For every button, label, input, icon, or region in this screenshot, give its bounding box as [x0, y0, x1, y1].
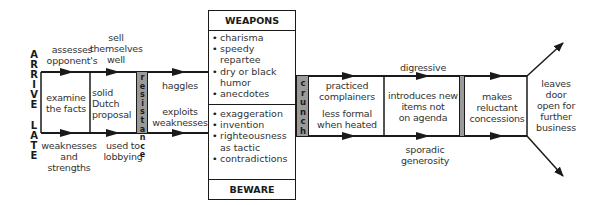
weapons-beware-box: WEAPONS charisma speedy repartee dry or …	[208, 10, 296, 200]
text-line: leaves	[528, 78, 584, 89]
text-line: Dutch	[92, 98, 136, 109]
stage-haggles: haggles	[151, 80, 209, 91]
text-line: exploits	[151, 106, 209, 117]
text-line: proposal	[92, 109, 136, 120]
text-line: well	[90, 54, 142, 65]
resistance-label: r e s i s t a n c e	[137, 74, 148, 160]
weapons-item: dry or black humor	[212, 66, 293, 88]
text-line: solid	[92, 87, 136, 98]
stage-practiced-complainers: practiced complainers	[311, 80, 383, 102]
stage-makes-concessions: makes reluctant concessions	[467, 91, 527, 124]
letter: e	[137, 151, 148, 160]
text-line: generosity	[390, 155, 460, 166]
text-line: introduces new	[384, 90, 462, 101]
digressive-label: digressive	[388, 62, 458, 73]
stage-leaves-door-open: leaves door open for further business	[528, 78, 584, 133]
stage-introduces: introduces new items not on agenda	[384, 90, 462, 123]
letter: E	[28, 100, 40, 110]
sell-themselves-label: sell themselves well	[90, 32, 142, 65]
double-bar	[459, 76, 465, 136]
text-line: door	[528, 89, 584, 100]
text-line: on agenda	[384, 112, 462, 123]
letter: h	[297, 127, 309, 137]
weapons-list: charisma speedy repartee dry or black hu…	[212, 32, 293, 99]
text-line: reluctant	[467, 102, 527, 113]
stage-less-formal: less formal when heated	[311, 108, 383, 130]
weapons-item: speedy repartee	[212, 43, 293, 65]
beware-item: righteousness as tactic	[212, 130, 293, 152]
text-line: themselves	[90, 43, 142, 54]
text-line: sell	[90, 32, 142, 43]
stage-solid-dutch-proposal: solid Dutch proposal	[92, 87, 136, 120]
beware-list: exaggeration invention righteousness as …	[212, 108, 293, 164]
weapons-item: charisma	[212, 32, 293, 43]
beware-title: BEWARE	[209, 179, 295, 199]
beware-item: contradictions	[212, 153, 293, 164]
text-line: examine	[42, 92, 90, 103]
beware-item: invention	[212, 119, 293, 130]
text-line: business	[528, 122, 584, 133]
text-line: weaknesses	[38, 140, 100, 151]
text-line: and strengths	[38, 151, 100, 173]
text-line: makes	[467, 91, 527, 102]
text-line: practiced	[311, 80, 383, 91]
text-line: further	[528, 111, 584, 122]
stage-examine: examine the facts	[42, 92, 90, 114]
box-divider	[209, 104, 295, 105]
crunch-label: c r u n c h	[297, 79, 309, 136]
arrive-label: A R R I V E	[28, 50, 40, 110]
text-line: complainers	[311, 91, 383, 102]
text-line: weaknesses	[151, 117, 209, 128]
weaknesses-label: weaknesses and strengths	[38, 140, 100, 173]
text-line: the facts	[42, 103, 90, 114]
text-line: less formal	[311, 108, 383, 119]
text-line: sporadic	[390, 144, 460, 155]
weapons-title: WEAPONS	[209, 11, 295, 31]
text-line: when heated	[311, 119, 383, 130]
sporadic-generosity-label: sporadic generosity	[390, 144, 460, 166]
text-line: items not	[384, 101, 462, 112]
beware-item: exaggeration	[212, 108, 293, 119]
text-line: concessions	[467, 113, 527, 124]
text-line: open for	[528, 100, 584, 111]
weapons-item: anecdotes	[212, 88, 293, 99]
stage-exploits: exploits weaknesses	[151, 106, 209, 128]
